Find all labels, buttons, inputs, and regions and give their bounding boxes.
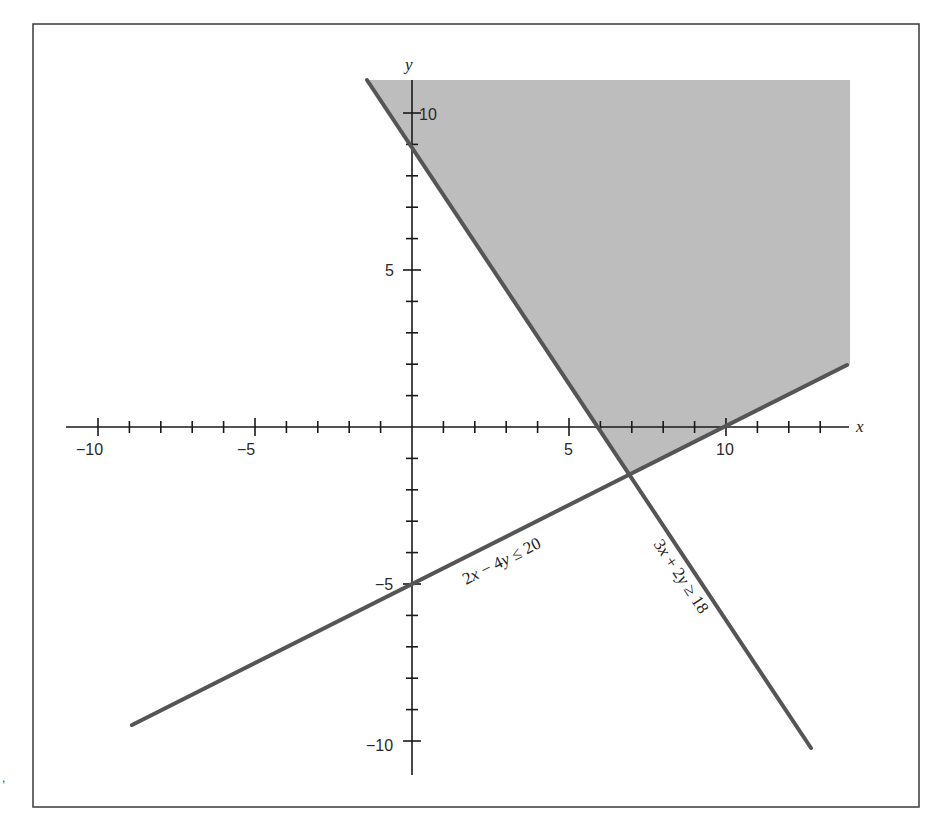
y-axis-label: y	[403, 55, 413, 74]
margin-mark: ,	[2, 771, 5, 785]
inequality-graph: x y −10 −5 5 10 10 5 −5 −10 2x − 4y ≤ 20…	[0, 0, 943, 832]
x-tick-label: 5	[564, 441, 573, 458]
x-tick-label: −5	[237, 441, 255, 458]
x-tick-label: −10	[76, 441, 103, 458]
y-tick-label: −5	[375, 576, 393, 593]
y-tick-label: −10	[366, 737, 393, 754]
x-tick-label: 10	[716, 441, 734, 458]
x-axis-label: x	[855, 417, 864, 436]
y-tick-label: 10	[419, 106, 437, 123]
y-tick-label: 5	[385, 262, 394, 279]
